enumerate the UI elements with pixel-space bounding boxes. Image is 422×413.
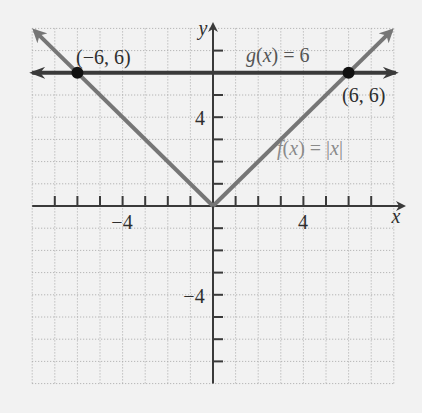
intersection-point-left <box>71 67 83 79</box>
y-tick-label-4: 4 <box>195 107 205 129</box>
chart: −4 4 4 −4 x y (−6, 6) (6, 6) g(x) = 6 f(… <box>0 0 422 413</box>
point-label-left: (−6, 6) <box>76 46 131 69</box>
intersection-point-right <box>343 67 355 79</box>
f-function-label: f(x) = |x| <box>277 137 343 160</box>
g-function-label: g(x) = 6 <box>246 44 310 67</box>
y-tick-label-neg4: −4 <box>183 285 204 307</box>
y-axis-label: y <box>197 17 208 40</box>
x-tick-label-4: 4 <box>298 211 308 233</box>
point-label-right: (6, 6) <box>342 84 385 107</box>
x-tick-label-neg4: −4 <box>111 211 132 233</box>
x-axis-label: x <box>391 205 401 227</box>
